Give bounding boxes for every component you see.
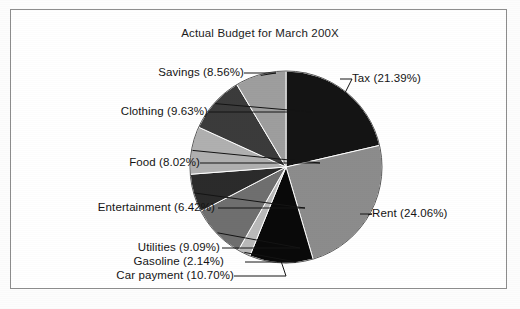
slice-label-car-payment: Car payment (10.70%) bbox=[116, 269, 234, 281]
slice-label-clothing: Clothing (9.63%) bbox=[121, 105, 208, 117]
slice-label-utilities: Utilities (9.09%) bbox=[138, 241, 220, 253]
slice-label-savings: Savings (8.56%) bbox=[158, 66, 244, 78]
slice-label-entertainment: Entertainment (6.42%) bbox=[98, 201, 215, 213]
slice-label-gasoline: Gasoline (2.14%) bbox=[134, 255, 224, 267]
pie-slices-group bbox=[190, 71, 382, 263]
slice-label-food: Food (8.02%) bbox=[129, 156, 200, 168]
pie-chart-figure: Actual Budget for March 200X Tax (21.39%… bbox=[0, 0, 520, 309]
pie-svg bbox=[0, 0, 520, 309]
leader-line-car-payment bbox=[234, 262, 286, 276]
slice-label-tax: Tax (21.39%) bbox=[352, 72, 421, 84]
slice-label-rent: Rent (24.06%) bbox=[372, 207, 447, 219]
